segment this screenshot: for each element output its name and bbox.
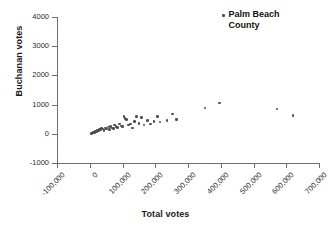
data-point	[218, 102, 221, 105]
data-point	[171, 113, 174, 116]
y-axis-line	[57, 17, 58, 164]
data-point	[116, 126, 119, 129]
y-tick	[52, 17, 57, 18]
data-point	[138, 122, 141, 125]
data-point	[133, 120, 136, 123]
data-point	[292, 114, 295, 117]
legend-label: Palm Beach County	[229, 9, 313, 31]
data-point	[175, 118, 178, 121]
data-point	[156, 115, 159, 118]
x-tick	[123, 163, 124, 168]
y-tick	[52, 105, 57, 106]
data-point	[121, 125, 124, 128]
data-point	[143, 124, 146, 127]
data-point	[166, 119, 169, 122]
data-point	[140, 116, 143, 119]
data-point	[135, 115, 138, 118]
x-tick	[319, 163, 320, 168]
scatter-chart: Buchanan votes Total votes -100001000200…	[0, 0, 331, 231]
data-point	[125, 118, 128, 121]
y-tick	[52, 75, 57, 76]
legend-marker-icon	[222, 14, 225, 17]
y-tick-label: 3000	[5, 42, 49, 50]
data-point	[146, 119, 149, 122]
data-point	[153, 120, 156, 123]
x-tick	[286, 163, 287, 168]
x-tick	[90, 163, 91, 168]
y-tick	[52, 134, 57, 135]
y-tick	[52, 46, 57, 47]
y-axis-title: Buchanan votes	[14, 6, 24, 116]
x-tick	[221, 163, 222, 168]
x-tick	[188, 163, 189, 168]
x-tick	[155, 163, 156, 168]
y-tick-label: 4000	[5, 13, 49, 21]
data-point	[131, 127, 134, 130]
x-tick	[254, 163, 255, 168]
y-tick-label: -1000	[5, 159, 49, 167]
y-tick-label: 0	[5, 130, 49, 138]
y-tick-label: 1000	[5, 101, 49, 109]
y-tick-label: 2000	[5, 71, 49, 79]
chart-legend: Palm Beach County	[222, 9, 313, 31]
x-tick	[57, 163, 58, 168]
data-point	[159, 121, 162, 124]
data-point	[129, 123, 132, 126]
data-point	[149, 123, 152, 126]
data-point	[276, 108, 279, 111]
data-point	[204, 107, 207, 110]
